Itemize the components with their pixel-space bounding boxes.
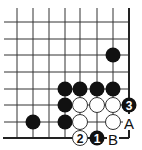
- move-number: 1: [94, 132, 101, 146]
- black-stone: [58, 115, 73, 130]
- stones: 321: [26, 48, 137, 146]
- black-stone: [26, 115, 41, 130]
- black-stone: [90, 82, 105, 97]
- black-stone-3: 3: [122, 98, 137, 113]
- black-stone: [58, 98, 73, 113]
- go-board: 321 AB: [0, 0, 142, 150]
- black-stone: [106, 48, 121, 63]
- white-stone: [73, 115, 88, 130]
- move-number: 3: [126, 99, 133, 113]
- black-stone: [58, 82, 73, 97]
- point-label-a: A: [124, 115, 134, 132]
- white-stone: [106, 115, 121, 130]
- point-label-b: B: [108, 131, 118, 148]
- white-stone: [90, 98, 105, 113]
- black-stone: [73, 82, 88, 97]
- white-stone-2: 2: [73, 131, 88, 146]
- black-stone: [106, 82, 121, 97]
- move-number: 2: [77, 132, 84, 146]
- black-stone-1: 1: [90, 131, 105, 146]
- white-stone: [106, 98, 121, 113]
- white-stone: [73, 98, 88, 113]
